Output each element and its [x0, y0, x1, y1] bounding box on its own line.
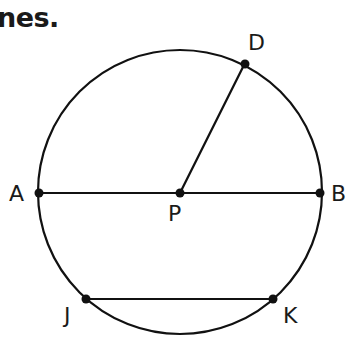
point-B — [316, 189, 325, 198]
radius-PD — [180, 63, 245, 193]
point-J — [82, 295, 91, 304]
point-A — [35, 189, 44, 198]
label-P: P — [168, 201, 181, 226]
label-B: B — [331, 181, 346, 206]
point-K — [269, 295, 278, 304]
label-K: K — [283, 303, 298, 328]
circle-diagram: A P B D J K — [0, 0, 350, 337]
point-D — [241, 60, 250, 69]
label-D: D — [248, 30, 265, 55]
label-J: J — [62, 303, 71, 328]
point-P — [176, 189, 185, 198]
label-A: A — [9, 181, 24, 206]
